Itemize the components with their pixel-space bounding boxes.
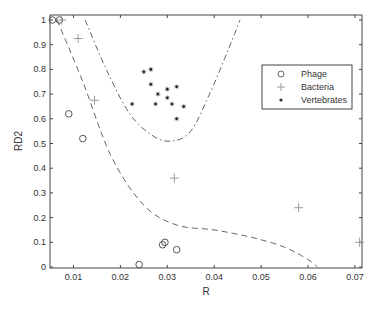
y-axis-ticks: 00.10.20.30.40.50.60.70.80.91 (33, 15, 362, 272)
vertebrate-point (130, 101, 135, 106)
vertebrate-point (155, 92, 160, 97)
y-tick-label: 0.5 (33, 139, 46, 149)
y-axis-label: RD2 (13, 131, 24, 151)
bacteria-point (294, 203, 303, 212)
vertebrate-point (169, 101, 174, 106)
vertebrate-point (148, 67, 153, 72)
scatter-chart: 0.010.020.030.040.050.060.07 00.10.20.30… (0, 0, 382, 311)
boundary-curves (57, 20, 317, 267)
x-tick-label: 0.02 (112, 272, 130, 282)
x-axis-ticks: 0.010.020.030.040.050.060.07 (65, 15, 364, 282)
vertebrate-point (181, 104, 186, 109)
legend: Phage Bacteria Vertebrates (262, 65, 352, 109)
x-tick-label: 0.04 (205, 272, 223, 282)
lower-boundary-curve (57, 20, 317, 267)
legend-label: Vertebrates (301, 95, 348, 105)
y-tick-label: 0.1 (33, 237, 46, 247)
x-tick-label: 0.03 (159, 272, 177, 282)
phage-point (173, 246, 180, 253)
y-tick-label: 0 (41, 262, 46, 272)
vertebrate-point (148, 82, 153, 87)
vertebrate-point (141, 69, 146, 74)
vertebrate-point (153, 101, 158, 106)
x-tick-label: 0.07 (346, 272, 364, 282)
legend-label: Bacteria (301, 82, 334, 92)
star-marker-icon (279, 98, 282, 101)
bacteria-point (355, 238, 364, 247)
bacteria-point (170, 174, 179, 183)
legend-label: Phage (301, 69, 327, 79)
y-tick-label: 0.9 (33, 40, 46, 50)
y-tick-label: 0.2 (33, 213, 46, 223)
x-tick-label: 0.05 (252, 272, 270, 282)
y-tick-label: 0.8 (33, 64, 46, 74)
phage-point (136, 261, 143, 268)
phage-point (65, 111, 72, 118)
upper-boundary-curve (85, 20, 240, 141)
x-tick-label: 0.06 (299, 272, 317, 282)
y-tick-label: 1 (41, 15, 46, 25)
bacteria-point (74, 34, 83, 43)
x-tick-label: 0.01 (65, 272, 83, 282)
vertebrate-point (174, 84, 179, 89)
y-tick-label: 0.3 (33, 188, 46, 198)
x-axis-label: R (202, 286, 209, 297)
bacteria-point (90, 96, 99, 105)
y-tick-label: 0.7 (33, 89, 46, 99)
vertebrate-point (174, 116, 179, 121)
y-tick-label: 0.4 (33, 163, 46, 173)
phage-point (80, 135, 87, 142)
vertebrate-point (165, 87, 170, 92)
data-points (49, 16, 364, 268)
y-tick-label: 0.6 (33, 114, 46, 124)
plot-frame (50, 15, 362, 268)
vertebrate-point (165, 95, 170, 100)
